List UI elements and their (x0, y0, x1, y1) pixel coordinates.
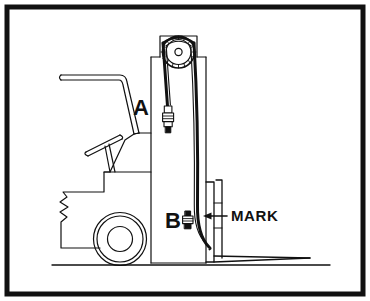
forklift-chain-adjustment-diagram: A B MARK (0, 0, 370, 301)
turnbuckle-shank (166, 127, 171, 133)
label-b: B (165, 208, 181, 233)
turnbuckle-nut-upper (163, 113, 174, 122)
figure-canvas: A B MARK (0, 0, 370, 301)
anchor-stud-top (185, 211, 190, 216)
turnbuckle-top-collar (164, 106, 172, 113)
label-a: A (133, 95, 149, 120)
anchor-stud-bottom (185, 224, 191, 229)
label-mark: MARK (231, 207, 278, 224)
anchor-nut (183, 216, 193, 224)
turnbuckle-nut-lower (164, 122, 172, 127)
figure-background (0, 0, 370, 301)
